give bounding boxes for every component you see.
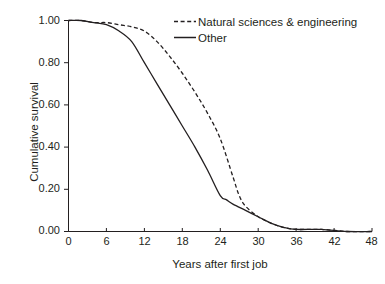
y-tick-marks: [64, 21, 69, 232]
x-tick-label-24: 24: [208, 236, 233, 247]
x-tick-label-18: 18: [170, 236, 195, 247]
x-axis-title: Years after first job: [68, 258, 372, 270]
legend-label-other: Other: [198, 33, 227, 45]
y-tick-label-1: 1.00: [14, 15, 60, 26]
series-line-natural-sciences-engineering: [69, 20, 373, 231]
x-tick-label-0: 0: [56, 236, 81, 247]
y-tick-label-6: 0.00: [14, 225, 60, 236]
survival-chart: 1.00 0.80 0.60 0.40 0.20 0.00 0 6 12 18 …: [0, 0, 385, 284]
series-line-other: [69, 20, 373, 231]
x-tick-label-6: 6: [94, 236, 119, 247]
x-tick-label-42: 42: [322, 236, 347, 247]
x-tick-label-36: 36: [284, 236, 309, 247]
x-tick-label-30: 30: [246, 236, 271, 247]
x-tick-marks: [69, 226, 373, 232]
y-axis-title: Cumulative survival: [28, 52, 40, 212]
x-tick-label-12: 12: [132, 236, 157, 247]
legend-label-natural-sciences-engineering: Natural sciences & engineering: [198, 17, 357, 29]
x-tick-label-48: 48: [359, 236, 384, 247]
